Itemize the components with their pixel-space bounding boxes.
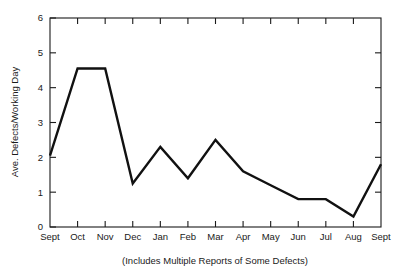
x-tick-label: Feb: [180, 231, 196, 242]
x-tick-label: Mar: [207, 231, 223, 242]
x-axis-labels: SeptOctNovDecJanFebMarAprMayJunJulAugSep…: [40, 231, 391, 242]
x-tick-label: Jun: [291, 231, 306, 242]
y-tick-label: 4: [38, 82, 43, 93]
y-tick-label: 1: [38, 187, 43, 198]
data-series-line: [50, 69, 381, 217]
x-tick-label: May: [262, 231, 280, 242]
x-tick-label: Jul: [320, 231, 332, 242]
x-tick-label: Jan: [153, 231, 168, 242]
x-axis-ticks: [78, 221, 354, 227]
x-tick-label: Nov: [97, 231, 114, 242]
y-tick-label: 3: [38, 117, 43, 128]
x-axis-ticks-top: [78, 18, 354, 24]
x-tick-label: Sept: [40, 231, 60, 242]
x-tick-label: Dec: [124, 231, 141, 242]
chart-figure: 0123456 SeptOctNovDecJanFebMarAprMayJunJ…: [0, 0, 400, 275]
y-tick-label: 5: [38, 47, 43, 58]
x-tick-label: Apr: [236, 231, 251, 242]
y-tick-label: 2: [38, 152, 43, 163]
y-tick-label: 6: [38, 12, 43, 23]
chart-caption: (Includes Multiple Reports of Some Defec…: [122, 255, 308, 266]
x-tick-label: Aug: [345, 231, 362, 242]
y-axis-ticks: 0123456: [38, 12, 56, 232]
x-tick-label: Oct: [70, 231, 85, 242]
y-axis-title: Ave. Defects/Working Day: [9, 66, 20, 177]
x-tick-label: Sept: [371, 231, 391, 242]
plot-frame: [50, 18, 381, 227]
defects-line-chart: 0123456 SeptOctNovDecJanFebMarAprMayJunJ…: [0, 0, 400, 275]
